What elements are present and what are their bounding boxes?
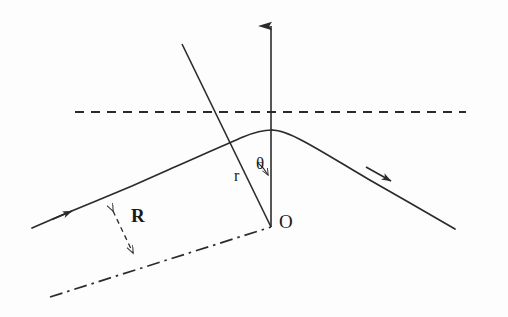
outgoing-ray-arrow <box>366 167 391 181</box>
radius-vector-line <box>182 44 271 227</box>
dashdot-asymptote-line <box>50 227 271 297</box>
impact-parameter-measure-line <box>113 211 133 253</box>
scattering-angle-label: θ <box>256 155 264 172</box>
impact-parameter-label: R <box>131 206 145 225</box>
radial-distance-label: r <box>234 168 239 184</box>
outgoing-trajectory-curve <box>272 130 455 229</box>
origin-label: O <box>279 212 293 231</box>
incoming-ray-arrow <box>52 211 72 220</box>
scattering-diagram: R r θ O <box>0 0 508 317</box>
diagram-canvas <box>0 0 508 317</box>
